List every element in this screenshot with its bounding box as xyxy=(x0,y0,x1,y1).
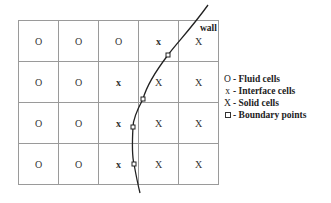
fluid-cell: O xyxy=(35,36,42,47)
interface-cell: x xyxy=(156,36,161,47)
fluid-cell: O xyxy=(75,36,82,47)
fluid-cell: O xyxy=(75,118,82,129)
fluid-cell: O xyxy=(35,77,42,88)
legend-item-boundary: - Boundary points xyxy=(222,109,306,121)
solid-cell: X xyxy=(195,36,203,47)
boundary-points xyxy=(131,53,170,166)
legend-item-fluid: O - Fluid cells xyxy=(222,73,306,85)
interface-cell: x xyxy=(116,118,121,129)
wall-label: wall xyxy=(200,23,217,33)
fluid-cell: O xyxy=(75,77,82,88)
legend-label: - Interface cells xyxy=(233,85,295,97)
legend-label: - Solid cells xyxy=(233,97,279,109)
solid-cell: X xyxy=(195,77,203,88)
legend-item-interface: x - Interface cells xyxy=(222,85,306,97)
fluid-cell: O xyxy=(35,159,42,170)
fluid-cell: O xyxy=(115,36,122,47)
legend-label: - Fluid cells xyxy=(233,73,280,85)
solid-cell-symbol: X xyxy=(222,97,233,109)
solid-cell: X xyxy=(155,118,163,129)
legend-item-solid: X - Solid cells xyxy=(222,97,306,109)
fluid-cell: O xyxy=(35,118,42,129)
interface-cell: x xyxy=(116,159,121,170)
legend: O - Fluid cells x - Interface cells X - … xyxy=(222,73,306,121)
solid-cell: X xyxy=(195,118,203,129)
solid-cell: X xyxy=(155,77,163,88)
interface-cell-symbol: x xyxy=(222,85,233,97)
boundary-point xyxy=(141,97,145,101)
boundary-point-icon xyxy=(222,109,233,121)
boundary-point xyxy=(131,125,135,129)
boundary-point xyxy=(132,162,136,166)
solid-cell: X xyxy=(155,159,163,170)
legend-label: - Boundary points xyxy=(233,109,306,121)
boundary-point xyxy=(166,53,170,57)
fluid-cell: O xyxy=(75,159,82,170)
fluid-cell-symbol: O xyxy=(222,73,233,85)
solid-cell: X xyxy=(195,159,203,170)
interface-cell: x xyxy=(116,77,121,88)
